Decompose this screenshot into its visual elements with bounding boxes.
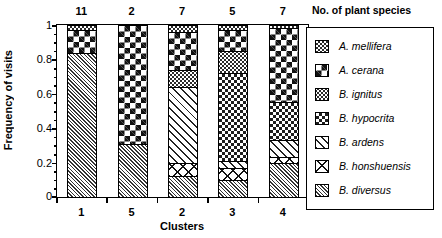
- x-tick: [258, 197, 260, 203]
- y-axis-label: 0.2: [37, 157, 52, 169]
- legend-swatch-icon: [315, 184, 329, 197]
- plant-species-count: 7: [157, 3, 207, 19]
- stacked-bar[interactable]: [269, 25, 299, 197]
- chart-figure: 11 2 7 5 7 No. of plant species Frequenc…: [0, 0, 442, 238]
- bar-segment: [119, 144, 147, 197]
- bar-segment: [169, 25, 197, 32]
- bar-segment: [169, 176, 197, 197]
- stacked-bar[interactable]: [67, 25, 97, 197]
- bar-segment: [219, 25, 247, 30]
- legend-item[interactable]: A. cerana: [307, 58, 433, 82]
- bar-segment: [270, 163, 298, 197]
- y-axis-label: 0: [46, 190, 52, 202]
- stacked-bar[interactable]: [168, 25, 198, 197]
- x-tick: [106, 197, 108, 203]
- plant-species-count: 11: [56, 3, 106, 19]
- legend-item-label: B. ignitus: [339, 88, 382, 100]
- y-axis-label: 0.8: [37, 53, 52, 65]
- legend-item-label: B. ardens: [339, 136, 384, 148]
- x-axis-label: 3: [207, 204, 257, 220]
- legend-item[interactable]: B. diversus: [307, 178, 433, 202]
- x-tick: [157, 197, 159, 203]
- legend-swatch-icon: [315, 112, 329, 125]
- bar-segment: [270, 157, 298, 162]
- legend-item[interactable]: A. mellifera: [307, 34, 433, 58]
- legend-swatch-icon: [315, 160, 329, 173]
- bar-slot: [107, 25, 157, 197]
- x-tick: [56, 197, 58, 203]
- legend-item-label: B. diversus: [339, 184, 391, 196]
- x-axis-label: 5: [106, 204, 156, 220]
- plant-species-count: 5: [207, 3, 257, 19]
- bar-segment: [270, 28, 298, 102]
- x-axis-labels: 1 5 2 3 4: [56, 204, 308, 220]
- legend-item-label: A. cerana: [339, 64, 384, 76]
- bar-segment: [270, 102, 298, 140]
- x-axis-label: 2: [157, 204, 207, 220]
- bar-slot: [158, 25, 208, 197]
- plant-species-count-row: 11 2 7 5 7: [56, 3, 308, 19]
- bar-slot: [259, 25, 309, 197]
- plant-species-count: 7: [258, 3, 308, 19]
- y-axis-label: 0.6: [37, 88, 52, 100]
- legend-swatch-icon: [315, 136, 329, 149]
- legend-item-label: A. mellifera: [339, 40, 392, 52]
- bar-segment: [219, 51, 247, 73]
- x-axis-ticks: [56, 197, 309, 203]
- bar-segment: [270, 140, 298, 157]
- bar-segment: [219, 73, 247, 161]
- bar-segment: [169, 32, 197, 70]
- bar-segment: [119, 25, 147, 144]
- legend-item[interactable]: B. ignitus: [307, 82, 433, 106]
- y-axis-label: 1: [46, 19, 52, 31]
- legend-item-label: B. hypocrita: [339, 112, 394, 124]
- bar-segment: [169, 70, 197, 87]
- bar-segment: [68, 25, 96, 30]
- bar-segment: [68, 53, 96, 197]
- y-axis-label: 0.4: [37, 122, 52, 134]
- legend-item[interactable]: B. honshuensis: [307, 154, 433, 178]
- x-axis-label: 1: [56, 204, 106, 220]
- x-tick: [207, 197, 209, 203]
- plant-species-count: 2: [106, 3, 156, 19]
- legend-swatch-icon: [315, 40, 329, 53]
- bar-segment: [270, 25, 298, 28]
- x-axis-label: 4: [258, 204, 308, 220]
- y-axis-title: Frequency of visits: [2, 50, 14, 150]
- stacked-bar[interactable]: [118, 25, 148, 197]
- bar-slot: [57, 25, 107, 197]
- legend-swatch-icon: [315, 64, 329, 77]
- legend-item[interactable]: B. ardens: [307, 130, 433, 154]
- bar-segment: [169, 87, 197, 163]
- bar-segment: [219, 161, 247, 168]
- bar-group: [57, 25, 309, 197]
- legend-item-label: B. honshuensis: [339, 160, 411, 172]
- legend-item[interactable]: B. hypocrita: [307, 106, 433, 130]
- x-axis-title: Clusters: [56, 220, 308, 232]
- bar-segment: [68, 30, 96, 52]
- bar-segment: [169, 163, 197, 177]
- bar-slot: [208, 25, 258, 197]
- legend-box: A. melliferaA. ceranaB. ignitusB. hypocr…: [306, 27, 434, 210]
- bar-segment: [219, 168, 247, 180]
- bar-segment: [219, 180, 247, 197]
- bar-segment: [219, 30, 247, 51]
- legend-swatch-icon: [315, 88, 329, 101]
- stacked-bar[interactable]: [218, 25, 248, 197]
- counts-header-label: No. of plant species: [312, 4, 411, 16]
- plot-area: 1 0.8 0.6 0.4 0.2 0: [56, 25, 309, 198]
